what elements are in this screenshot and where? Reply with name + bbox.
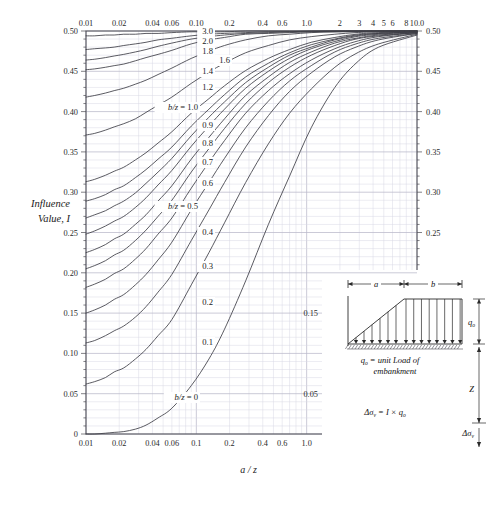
x-tick-top: 0.01	[79, 19, 94, 28]
x-tick-bottom: 1.0	[301, 439, 311, 448]
x-tick-top: 0.6	[277, 19, 287, 28]
curve-label-1: b/z = 1.0	[155, 102, 200, 113]
y-tick-left: 0.05	[63, 390, 78, 399]
y-tick-right: 0.30	[426, 188, 441, 197]
y-tick-inset-005: 0.05	[303, 390, 318, 399]
x-tick-top: 3	[357, 19, 361, 28]
x-tick-bottom: 0.01	[79, 439, 94, 448]
x-tick-top: 4	[371, 19, 376, 28]
curve-label-0.6: 0.6	[197, 178, 215, 189]
curve-label-text: 1.4	[202, 66, 213, 76]
y-tick-left: 0.10	[63, 349, 78, 358]
x-axis-title: a / z	[0, 459, 497, 477]
x-tick-bottom: 0.06	[165, 439, 180, 448]
x-tick-bottom: 0.1	[191, 439, 201, 448]
curve-label-text: 0.8	[202, 138, 213, 148]
curve-label-1.8: 1.8	[197, 46, 215, 57]
x-tick-top: 1.0	[301, 19, 311, 28]
curve-labels-layer: 3.02.01.81.61.41.2b/z = 1.00.90.80.70.6b…	[155, 26, 232, 403]
x-tick-bottom: 0.02	[112, 439, 127, 448]
curve-0.8	[86, 32, 417, 218]
curve-label-0.1: 0.1	[197, 337, 215, 348]
y-tick-left: 0.40	[63, 108, 78, 117]
y-tick-right: 0.50	[426, 27, 441, 36]
curve-label-text: 1.6	[219, 55, 230, 65]
curve-0.7	[86, 32, 417, 234]
x-tick-top: 0.4	[258, 19, 269, 28]
x-tick-top: 6	[390, 19, 394, 28]
curve-0.9	[86, 32, 417, 201]
inset-caption-line1: qo = unit Load of	[361, 355, 421, 366]
inset-depth-label: Z	[469, 384, 474, 394]
curve-label-text: 0.9	[202, 120, 213, 130]
curve-label-0.8: 0.8	[197, 138, 215, 149]
curve-label-text: 0.2	[202, 297, 213, 307]
y-axis-title-line2: Value, I	[6, 211, 70, 226]
curve-label-0.9: 0.9	[197, 120, 215, 131]
y-tick-left: 0.35	[63, 148, 78, 157]
x-tick-bottom: 0.04	[145, 439, 160, 448]
x-tick-top: 0.06	[165, 19, 180, 28]
curve-label-1.2: 1.2	[197, 82, 215, 93]
y-tick-left: 0	[74, 430, 78, 439]
curve-label-0.3: 0.3	[197, 261, 215, 272]
x-tick-top: 0.2	[224, 19, 234, 28]
x-tick-top: 2	[338, 19, 342, 28]
curve-label-text: b/z = 0	[175, 392, 198, 402]
curve-0.5	[86, 33, 417, 269]
embankment-inset-diagram: abqoqo = unit Load ofembankmentZΔσvΔσv =…	[308, 31, 497, 447]
influence-chart-figure: Influence Value, I a / z 0.010.020.040.0…	[0, 0, 497, 505]
y-tick-left: 0.25	[63, 229, 78, 238]
curve-label-text: 1.2	[202, 82, 213, 92]
curve-label-1.6: 1.6	[214, 55, 232, 66]
y-tick-right: 0.40	[426, 108, 441, 117]
curve-label-text: 0.1	[202, 337, 213, 347]
inset-dimension-a: a	[374, 279, 378, 289]
curve-label-1.4: 1.4	[197, 66, 215, 77]
curve-label-text: 0.7	[202, 157, 213, 167]
y-tick-right: 0.25	[426, 229, 441, 238]
curve-label-text: 1.8	[202, 46, 213, 56]
chart-canvas: 0.010.020.040.060.10.20.40.61.00.010.020…	[0, 0, 497, 505]
inset-dimension-b: b	[431, 279, 435, 289]
curve-0.6	[86, 33, 417, 253]
curve-label-text: 0.3	[202, 261, 213, 271]
curve-label-0: b/z = 0	[164, 392, 200, 403]
x-tick-bottom: 0.6	[277, 439, 287, 448]
curve-label-text: 3.0	[202, 26, 213, 36]
curve-label-text: 2.0	[202, 36, 213, 46]
curve-label-text: b/z = 1.0	[168, 102, 198, 112]
curve-label-0.5: b/z = 0.5	[155, 201, 200, 212]
curve-label-text: b/z = 0.5	[168, 201, 198, 211]
y-tick-right: 0.35	[426, 148, 441, 157]
y-tick-left: 0.20	[63, 269, 78, 278]
curve-label-text: 0.6	[202, 178, 213, 188]
curve-label-text: 0.4	[202, 227, 213, 237]
x-tick-top: 0.04	[145, 19, 160, 28]
y-tick-inset-015: 0.15	[303, 309, 318, 318]
curve-label-0.7: 0.7	[197, 157, 215, 168]
inset-formula: Δσv = I × qo	[363, 407, 406, 418]
y-axis-title: Influence Value, I	[6, 196, 70, 226]
y-tick-left: 0.45	[63, 67, 78, 76]
x-tick-top: 10.0	[410, 19, 425, 28]
x-tick-top: 8	[404, 19, 408, 28]
y-tick-left: 0.15	[63, 309, 78, 318]
curve-label-0.4: 0.4	[197, 227, 215, 238]
x-tick-bottom: 0.4	[258, 439, 269, 448]
inset-caption-line2: embankment	[374, 366, 418, 376]
y-tick-left: 0.50	[63, 27, 78, 36]
x-tick-top: 0.02	[112, 19, 127, 28]
y-tick-right: 0.45	[426, 67, 441, 76]
x-tick-top: 5	[382, 19, 386, 28]
y-axis-title-line1: Influence	[6, 196, 70, 211]
x-axis-title-text: a / z	[240, 464, 257, 475]
curve-label-0.2: 0.2	[197, 297, 215, 308]
x-tick-bottom: 0.2	[224, 439, 234, 448]
